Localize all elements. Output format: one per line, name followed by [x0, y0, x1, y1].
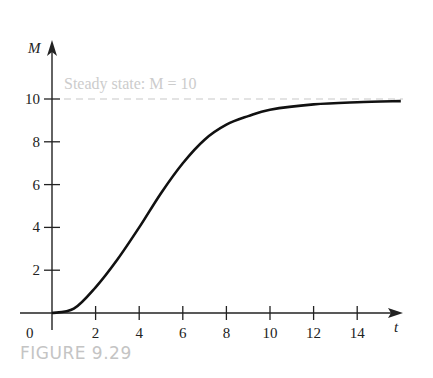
x-tick-label: 6: [179, 325, 187, 341]
y-tick-label: 10: [25, 91, 40, 107]
y-axis-label: M: [27, 40, 42, 56]
x-tick-label: 4: [135, 325, 143, 341]
x-tick-label: 2: [92, 325, 100, 341]
logistic-chart: 24681012142468100tM Steady state: M = 10: [0, 0, 433, 378]
x-tick-label: 10: [263, 325, 278, 341]
y-tick-label: 6: [33, 177, 41, 193]
x-axis-label: t: [394, 319, 399, 335]
y-tick-label: 4: [33, 219, 41, 235]
origin-label: 0: [26, 325, 34, 341]
x-tick-label: 8: [223, 325, 231, 341]
y-tick-label: 8: [33, 134, 41, 150]
figure-caption: FIGURE 9.29: [20, 343, 132, 363]
x-tick-label: 14: [350, 325, 366, 341]
x-tick-label: 12: [306, 325, 321, 341]
y-tick-label: 2: [33, 262, 41, 278]
curve-M-of-t: [52, 101, 401, 313]
steady-state-label: Steady state: M = 10: [64, 75, 197, 93]
